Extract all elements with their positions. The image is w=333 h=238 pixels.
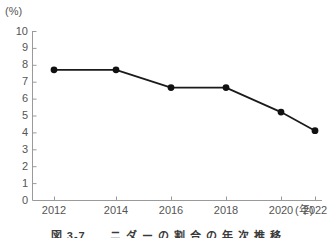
y-axis-tick-label: 6	[6, 93, 28, 104]
x-axis-tick-label: 2020	[269, 204, 293, 217]
y-axis-tick-label: 8	[6, 59, 28, 70]
data-point-marker	[312, 127, 319, 134]
x-axis-tick-labels: (年) 201220142016201820202022	[0, 204, 333, 220]
y-axis-tick-label: 2	[6, 161, 28, 172]
y-axis-tick-label: 4	[6, 127, 28, 138]
x-axis-tick-label: 2022	[303, 204, 327, 217]
x-axis-tick-label: 2012	[42, 204, 66, 217]
data-point-marker	[168, 84, 175, 91]
data-point-marker	[278, 109, 285, 116]
figure-container: (%) 109876543210 (年) 2012201420162018202…	[0, 0, 333, 238]
data-point-marker	[223, 84, 230, 91]
y-axis-tick-label: 1	[6, 178, 28, 189]
x-axis-tick-label: 2016	[159, 204, 183, 217]
y-axis-ticks	[33, 32, 37, 201]
y-axis-tick-label: 3	[6, 144, 28, 155]
line-chart-svg	[32, 31, 322, 203]
data-series-line	[54, 70, 315, 131]
plot-area	[32, 31, 322, 200]
x-axis-tick-label: 2018	[214, 204, 238, 217]
y-axis-tick-label: 5	[6, 110, 28, 121]
y-axis-tick-label: 7	[6, 76, 28, 87]
data-point-marker	[113, 66, 120, 73]
data-point-markers	[51, 66, 319, 134]
y-axis-tick-label: 10	[6, 26, 28, 37]
x-axis-tick-label: 2014	[104, 204, 128, 217]
x-axis-ticks	[55, 197, 316, 201]
data-point-marker	[51, 66, 58, 73]
y-axis-tick-label: 9	[6, 42, 28, 53]
figure-caption: 図 3-7 ニ ダ ー の 割 合 の 年 次 推 移	[0, 229, 333, 238]
y-axis-tick-labels: 109876543210	[0, 0, 28, 238]
